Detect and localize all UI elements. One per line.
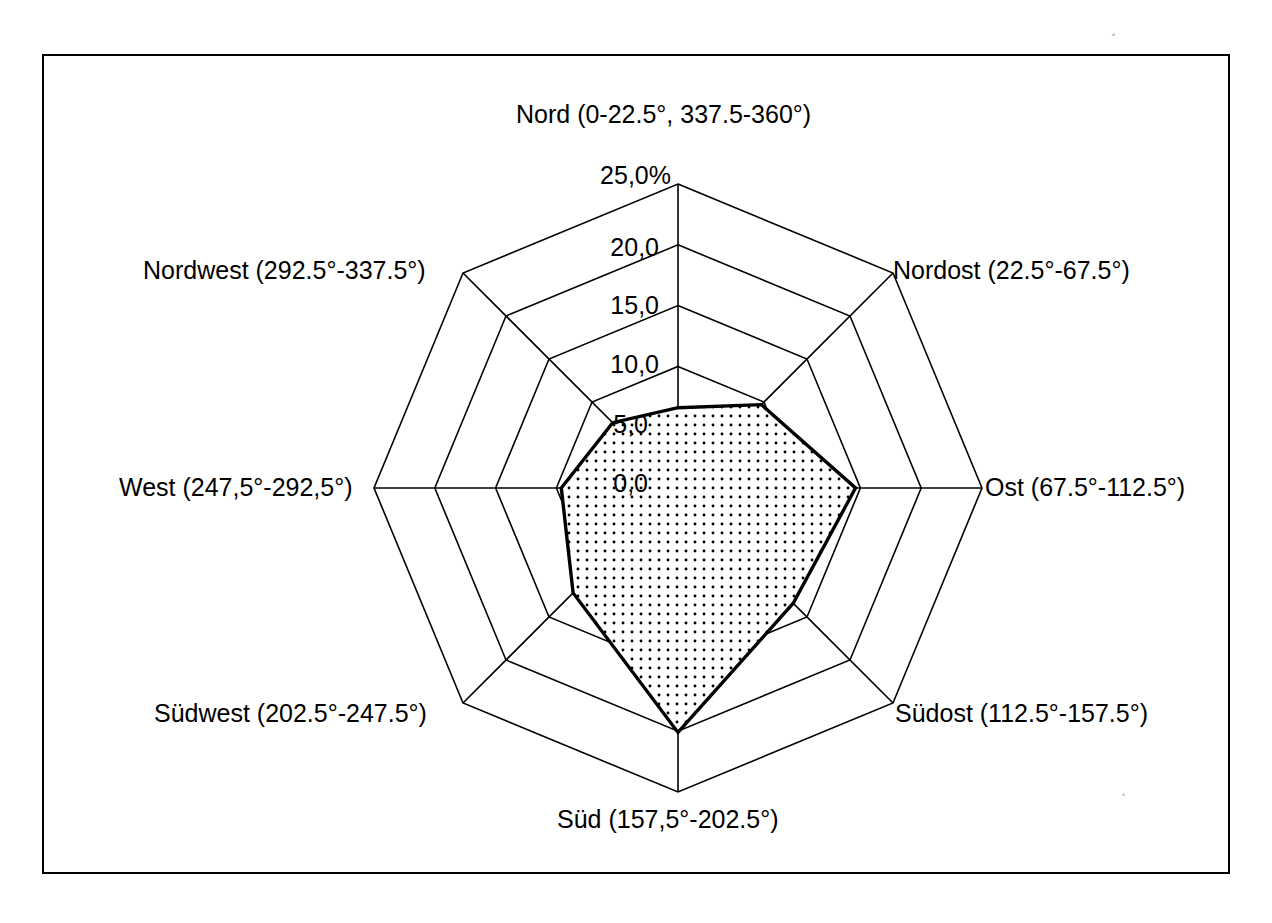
axis-label-northwest: Nordwest (292.5°-337.5°) bbox=[143, 256, 426, 284]
radial-tick-25: 25,0% bbox=[536, 161, 671, 189]
scan-artifact-top: • bbox=[1112, 30, 1115, 40]
scan-artifact-bottom: • bbox=[1122, 790, 1125, 800]
axis-label-southeast: Südost (112.5°-157.5°) bbox=[895, 699, 1148, 727]
axis-label-southwest: Südwest (202.5°-247.5°) bbox=[154, 699, 427, 727]
radial-tick-0: 0,0 bbox=[536, 469, 648, 497]
axis-label-northeast: Nordost (22.5°-67.5°) bbox=[893, 256, 1130, 284]
radial-tick-5: 5,0 bbox=[536, 410, 648, 438]
radial-tick-10: 10,0 bbox=[536, 350, 659, 378]
radar-chart-graphic bbox=[0, 0, 1272, 923]
radial-tick-20: 20,0 bbox=[536, 233, 659, 261]
radial-tick-15: 15,0 bbox=[536, 291, 659, 319]
axis-label-west: West (247,5°-292,5°) bbox=[119, 473, 353, 501]
axis-label-south: Süd (157,5°-202.5°) bbox=[557, 805, 779, 833]
axis-label-north: Nord (0-22.5°, 337.5-360°) bbox=[516, 100, 811, 128]
axis-label-east: Ost (67.5°-112.5°) bbox=[985, 473, 1185, 501]
radar-data-series-polygon bbox=[561, 405, 855, 733]
chart-page: Nord (0-22.5°, 337.5-360°) Nordost (22.5… bbox=[0, 0, 1272, 923]
